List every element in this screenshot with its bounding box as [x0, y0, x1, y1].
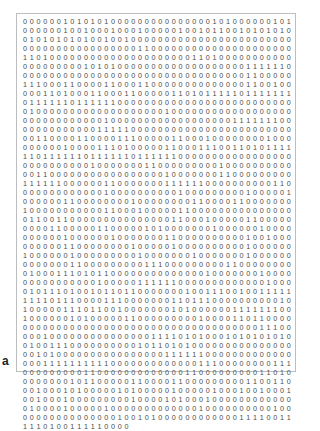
binary-digit: 0 [30, 116, 37, 125]
binary-digit: 1 [70, 305, 77, 314]
binary-digit: 0 [70, 143, 77, 152]
binary-digit: 0 [287, 404, 294, 413]
binary-digit: 0 [111, 134, 118, 143]
binary-digit: 0 [280, 152, 287, 161]
binary-digit: 0 [206, 35, 213, 44]
binary-digit: 0 [219, 395, 226, 404]
binary-digit: 0 [124, 395, 131, 404]
binary-digit: 0 [111, 314, 118, 323]
binary-digit: 0 [77, 116, 84, 125]
binary-digit: 0 [179, 359, 186, 368]
binary-digit: 0 [111, 269, 118, 278]
binary-digit: 1 [172, 89, 179, 98]
binary-digit: 1 [91, 89, 98, 98]
binary-digit: 0 [280, 188, 287, 197]
binary-digit: 0 [70, 98, 77, 107]
binary-digit: 0 [192, 260, 199, 269]
binary-digit: 1 [179, 89, 186, 98]
binary-digit: 1 [30, 269, 37, 278]
binary-digit: 1 [179, 179, 186, 188]
binary-digit: 0 [185, 17, 192, 26]
binary-row: 0000000000100000001100000000010000000000 [23, 161, 294, 170]
binary-digit: 0 [199, 377, 206, 386]
binary-digit: 0 [77, 170, 84, 179]
binary-digit: 0 [212, 305, 219, 314]
binary-digit: 0 [152, 107, 159, 116]
binary-digit: 0 [267, 152, 274, 161]
binary-digit: 0 [118, 278, 125, 287]
binary-digit: 0 [253, 404, 260, 413]
binary-digit: 0 [97, 188, 104, 197]
binary-digit: 0 [104, 377, 111, 386]
binary-digit: 0 [165, 206, 172, 215]
binary-digit: 0 [253, 161, 260, 170]
binary-digit: 0 [152, 359, 159, 368]
binary-digit: 0 [118, 341, 125, 350]
binary-digit: 0 [260, 251, 267, 260]
binary-row: 0100011101011000000000000001000000010000 [23, 269, 294, 278]
binary-digit: 0 [37, 269, 44, 278]
binary-digit: 0 [226, 197, 233, 206]
binary-digit: 1 [111, 62, 118, 71]
binary-digit: 0 [77, 161, 84, 170]
binary-digit: 0 [158, 143, 165, 152]
binary-digit: 0 [240, 44, 247, 53]
binary-digit: 0 [212, 179, 219, 188]
binary-digit: 1 [145, 80, 152, 89]
binary-digit: 1 [179, 350, 186, 359]
binary-digit: 1 [219, 161, 226, 170]
binary-digit: 0 [240, 206, 247, 215]
binary-digit: 0 [165, 224, 172, 233]
binary-digit: 1 [77, 98, 84, 107]
binary-digit: 0 [199, 413, 206, 422]
binary-digit: 0 [23, 215, 30, 224]
binary-digit: 0 [280, 251, 287, 260]
binary-digit: 0 [43, 116, 50, 125]
binary-digit: 0 [64, 368, 71, 377]
binary-digit: 1 [50, 422, 57, 431]
binary-digit: 0 [273, 386, 280, 395]
binary-digit: 0 [192, 224, 199, 233]
binary-digit: 0 [240, 359, 247, 368]
binary-digit: 0 [70, 161, 77, 170]
binary-row: 0010001010000010100000100000100010010001 [23, 386, 294, 395]
binary-digit: 0 [152, 314, 159, 323]
binary-digit: 1 [165, 350, 172, 359]
binary-digit: 1 [185, 332, 192, 341]
binary-digit: 0 [77, 350, 84, 359]
binary-digit: 0 [206, 404, 213, 413]
binary-digit: 0 [124, 422, 131, 431]
binary-digit: 1 [280, 332, 287, 341]
binary-digit: 0 [179, 161, 186, 170]
binary-digit: 0 [267, 107, 274, 116]
binary-digit: 0 [226, 386, 233, 395]
binary-digit: 0 [206, 386, 213, 395]
binary-digit: 0 [199, 35, 206, 44]
binary-digit: 0 [91, 332, 98, 341]
binary-digit: 0 [240, 224, 247, 233]
binary-digit: 0 [165, 98, 172, 107]
binary-digit: 0 [165, 251, 172, 260]
binary-digit: 0 [226, 233, 233, 242]
binary-digit: 0 [179, 233, 186, 242]
binary-digit: 1 [206, 89, 213, 98]
binary-digit: 0 [37, 233, 44, 242]
binary-digit: 0 [185, 80, 192, 89]
binary-digit: 0 [131, 152, 138, 161]
binary-digit: 0 [57, 251, 64, 260]
binary-digit: 0 [165, 116, 172, 125]
binary-digit: 0 [206, 233, 213, 242]
binary-digit: 0 [64, 278, 71, 287]
binary-digit: 0 [43, 224, 50, 233]
binary-digit: 0 [233, 53, 240, 62]
binary-digit: 0 [131, 107, 138, 116]
binary-digit: 0 [77, 35, 84, 44]
binary-digit: 0 [192, 206, 199, 215]
binary-digit: 1 [185, 341, 192, 350]
binary-digit: 0 [192, 305, 199, 314]
binary-digit: 1 [179, 206, 186, 215]
binary-digit: 0 [185, 215, 192, 224]
binary-digit: 0 [131, 224, 138, 233]
binary-digit: 0 [253, 152, 260, 161]
binary-digit: 0 [233, 377, 240, 386]
